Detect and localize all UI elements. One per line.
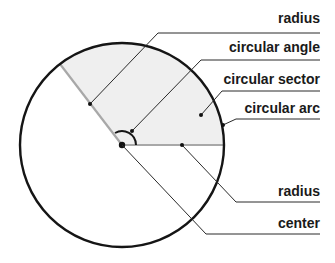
- point-radius-bottom: [180, 143, 184, 147]
- point-circular-sector: [199, 113, 203, 117]
- leader-circular-arc: [223, 119, 320, 125]
- label-center: center: [278, 215, 321, 231]
- point-radius-top: [88, 102, 92, 106]
- label-radius-bottom: radius: [278, 183, 320, 199]
- label-circular-arc: circular arc: [245, 100, 321, 116]
- label-circular-angle: circular angle: [229, 39, 320, 55]
- label-circular-sector: circular sector: [224, 71, 321, 87]
- circular-sector-shape: [60, 43, 224, 145]
- point-circular-arc: [221, 123, 225, 127]
- point-circular-angle: [130, 129, 134, 133]
- label-radius-top: radius: [278, 10, 320, 26]
- circle-diagram: radius circular angle circular sector ci…: [0, 0, 335, 263]
